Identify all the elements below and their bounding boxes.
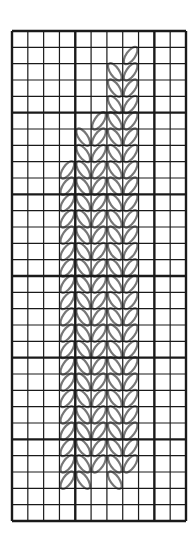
knitting-chart <box>0 0 191 557</box>
chart-grid <box>12 31 186 521</box>
